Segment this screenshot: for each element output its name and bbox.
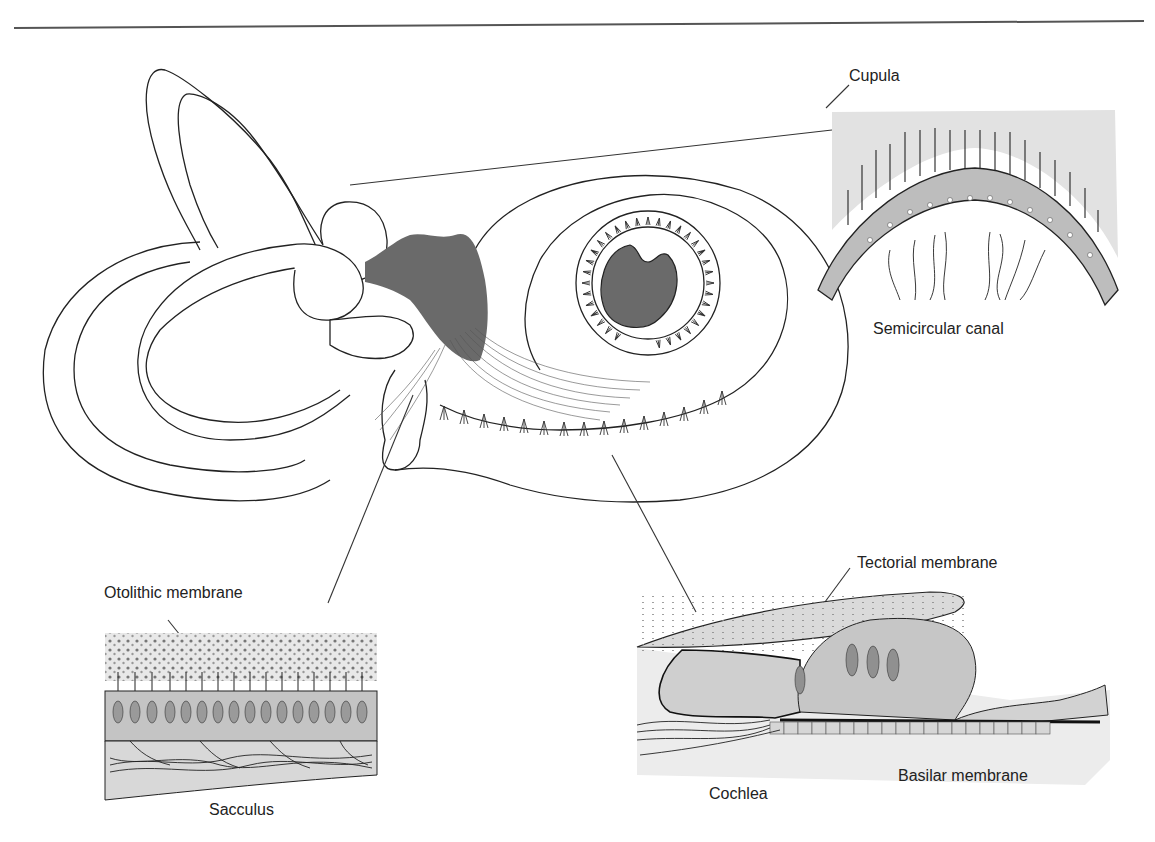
organ-of-corti-inset: [637, 592, 1110, 785]
cochlear-apex: [601, 245, 677, 327]
label-cochlea: Cochlea: [709, 786, 768, 802]
label-sacculus: Sacculus: [209, 802, 274, 818]
inner-ear-diagram: [0, 0, 1155, 842]
label-semicircular-canal: Semicircular canal: [873, 321, 1004, 337]
label-tectorial-membrane: Tectorial membrane: [857, 555, 998, 571]
label-otolithic-membrane: Otolithic membrane: [104, 585, 243, 601]
label-basilar-membrane: Basilar membrane: [898, 768, 1028, 784]
label-cupula: Cupula: [849, 68, 900, 84]
crista-ampullaris-inset: [818, 110, 1118, 305]
macula-sacculi-inset: [105, 633, 377, 800]
